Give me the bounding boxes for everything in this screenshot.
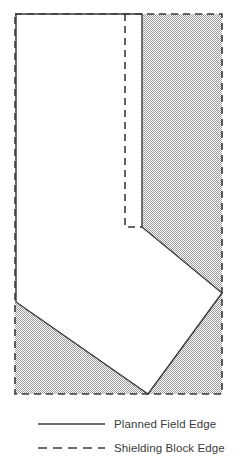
legend-entry-planned-field-edge: Planned Field Edge xyxy=(38,418,216,430)
figure-root: Planned Field Edge Shielding Block Edge xyxy=(0,0,240,463)
legend-entry-shielding-block-edge: Shielding Block Edge xyxy=(38,442,225,454)
legend-label-shielding-block-edge: Shielding Block Edge xyxy=(114,442,225,454)
legend-label-planned-field-edge: Planned Field Edge xyxy=(114,418,216,430)
diagram-canvas: Planned Field Edge Shielding Block Edge xyxy=(0,0,240,463)
figure-legend: Planned Field Edge Shielding Block Edge xyxy=(38,418,225,454)
